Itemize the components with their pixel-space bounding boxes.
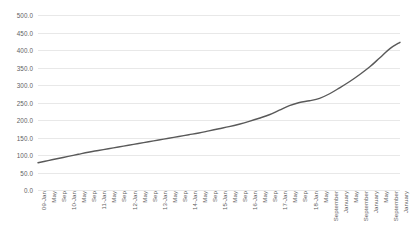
x-tick-label: September xyxy=(363,191,369,221)
x-tick-label: January xyxy=(403,191,409,213)
x-tick-label: May xyxy=(383,191,389,203)
x-tick-label: September xyxy=(333,191,339,221)
x-tick-label: Sep xyxy=(182,191,188,202)
x-tick-label: May xyxy=(232,191,238,203)
x-tick-label: January xyxy=(373,191,379,213)
x-tick-label: 12-Jan xyxy=(132,191,138,210)
x-tick-label: Sep xyxy=(212,191,218,202)
x-tick-label: May xyxy=(353,191,359,203)
y-tick-label: 50.0 xyxy=(20,169,33,176)
y-tick-label: 400.0 xyxy=(17,47,33,54)
x-tick-label: Sep xyxy=(61,191,67,202)
x-tick-label: 14-Jan xyxy=(192,191,198,210)
x-tick-label: May xyxy=(142,191,148,203)
y-tick-label: 0.0 xyxy=(24,187,33,194)
x-tick-label: 11-Jan xyxy=(101,191,107,209)
x-tick-label: May xyxy=(172,191,178,203)
x-tick-label: May xyxy=(51,191,57,203)
x-tick-label: 10-Jan xyxy=(71,191,77,210)
x-tick-label: Sep xyxy=(242,191,248,202)
x-tick-label: May xyxy=(323,191,329,203)
y-axis: 0.050.0100.0150.0200.0250.0300.0350.0400… xyxy=(0,0,36,236)
y-tick-label: 450.0 xyxy=(17,29,33,36)
y-tick-label: 250.0 xyxy=(17,99,33,106)
x-tick-label: January xyxy=(343,191,349,213)
x-tick-label: 09-Jan xyxy=(41,191,47,210)
series-line xyxy=(38,15,400,190)
x-tick-label: September xyxy=(393,191,399,221)
x-tick-label: 13-Jan xyxy=(162,191,168,210)
x-tick-label: 17-Jan xyxy=(282,191,288,210)
x-tick-label: May xyxy=(202,191,208,203)
series-path xyxy=(38,42,400,162)
x-tick-label: 16-Jan xyxy=(252,191,258,210)
y-tick-label: 150.0 xyxy=(17,134,33,141)
x-tick-label: May xyxy=(81,191,87,203)
x-tick-label: Sep xyxy=(272,191,278,202)
x-tick-label: May xyxy=(111,191,117,203)
x-tick-label: 15-Jan xyxy=(222,191,228,210)
x-tick-label: May xyxy=(262,191,268,203)
y-tick-label: 100.0 xyxy=(17,152,33,159)
x-tick-label: 18-Jan xyxy=(313,191,319,210)
x-tick-label: May xyxy=(292,191,298,203)
x-tick-label: Sep xyxy=(121,191,127,202)
line-chart: 0.050.0100.0150.0200.0250.0300.0350.0400… xyxy=(0,0,420,236)
x-tick-label: Sep xyxy=(302,191,308,202)
y-tick-label: 200.0 xyxy=(17,117,33,124)
y-tick-label: 300.0 xyxy=(17,82,33,89)
plot-area xyxy=(38,15,400,190)
y-tick-label: 500.0 xyxy=(17,12,33,19)
x-tick-label: Sep xyxy=(91,191,97,202)
y-tick-label: 350.0 xyxy=(17,64,33,71)
x-tick-label: Sep xyxy=(152,191,158,202)
x-axis: 09-JanMaySep10-JanMaySep11-JanMaySep12-J… xyxy=(38,191,400,236)
